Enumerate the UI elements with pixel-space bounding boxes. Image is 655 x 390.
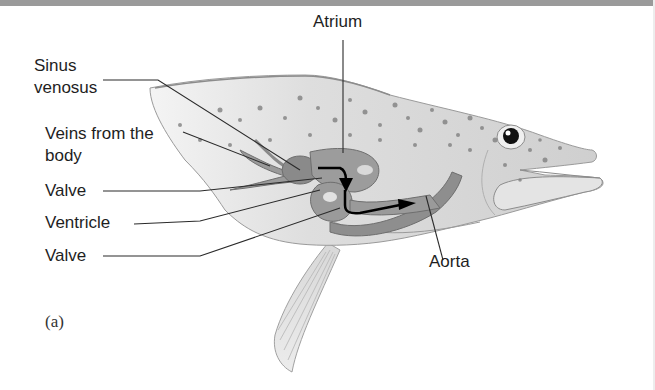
label-veins-from-body-line1: Veins from the [45,124,154,144]
label-atrium: Atrium [313,12,362,32]
fish-body [150,75,603,245]
label-ventricle: Ventricle [45,213,110,233]
pelvic-fin [274,243,340,372]
panel-label: (a) [45,312,64,332]
label-veins-from-body-line2: body [45,146,82,166]
label-sinus-venosus-line2: venosus [34,78,97,98]
label-valve-upper: Valve [45,181,86,201]
label-aorta: Aorta [429,252,470,272]
fish-illustration [0,0,655,390]
fish-jaw [494,177,603,210]
label-sinus-venosus-line1: Sinus [34,56,77,76]
label-valve-lower: Valve [45,246,86,266]
fish-eye [497,125,525,149]
